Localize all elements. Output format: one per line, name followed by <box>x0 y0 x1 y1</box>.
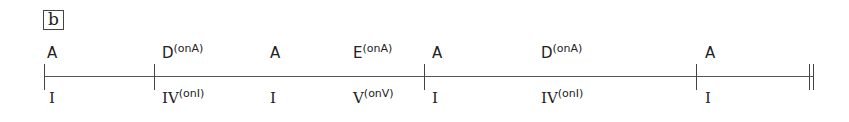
chord-label: E(onA) <box>353 45 392 62</box>
panel-label-text: b <box>48 9 59 29</box>
final-double-bar-left <box>809 64 810 90</box>
roman-degree: IV <box>162 89 179 107</box>
chord-label: D(onA) <box>162 45 203 62</box>
chord-name: A <box>705 44 715 62</box>
chord-label: D(onA) <box>541 45 582 62</box>
roman-numeral-label: I <box>432 90 438 107</box>
bar-line-3 <box>424 64 425 90</box>
chord-name: D <box>162 44 174 62</box>
roman-numeral-label: V(onV) <box>353 90 394 107</box>
roman-degree: I <box>270 89 276 107</box>
bar-line-4 <box>696 64 697 90</box>
timeline-line <box>44 76 813 77</box>
chord-label: A <box>432 45 442 62</box>
roman-degree: V <box>353 89 364 107</box>
chord-slash: (onA) <box>174 42 204 55</box>
chord-label: A <box>47 45 57 62</box>
chord-label: A <box>705 45 715 62</box>
chord-name: A <box>270 44 280 62</box>
roman-degree: I <box>49 89 55 107</box>
bar-line-1 <box>44 64 45 90</box>
bar-line-2 <box>154 64 155 90</box>
chord-label: A <box>270 45 280 62</box>
chord-slash: (onA) <box>362 42 392 55</box>
roman-numeral-label: I <box>49 90 55 107</box>
roman-degree: IV <box>541 89 558 107</box>
roman-numeral-label: I <box>705 90 711 107</box>
roman-numeral-label: I <box>270 90 276 107</box>
final-double-bar-right <box>813 64 814 90</box>
chord-name: D <box>541 44 553 62</box>
roman-degree: I <box>432 89 438 107</box>
roman-numeral-label: IV(onI) <box>162 90 204 107</box>
chord-name: A <box>47 44 57 62</box>
panel-label-box: b <box>43 10 64 30</box>
roman-numeral-label: IV(onI) <box>541 90 583 107</box>
roman-slash: (onI) <box>558 87 584 100</box>
roman-slash: (onV) <box>364 87 394 100</box>
roman-degree: I <box>705 89 711 107</box>
chord-name: A <box>432 44 442 62</box>
chord-slash: (onA) <box>553 42 583 55</box>
roman-slash: (onI) <box>179 87 205 100</box>
